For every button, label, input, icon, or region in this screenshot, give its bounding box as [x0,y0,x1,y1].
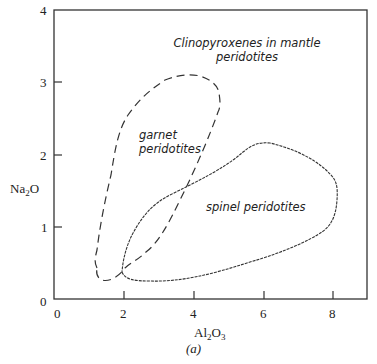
x-tick-6: 6 [260,306,267,321]
y-axis-title: Na2O [10,181,39,198]
spinel-label: spinel peridotites [206,200,306,214]
x-axis-title: Al2O3 [194,325,226,342]
y-tick-2: 2 [40,148,47,163]
garnet-label-line1: garnet [139,128,177,142]
x-tick-0: 0 [54,306,61,321]
y-tick-4: 4 [40,3,47,18]
chart-title-line1: Clinopyroxenes in mantle [174,36,321,50]
y-tick-1: 1 [41,220,48,235]
plot-frame [54,10,367,299]
y-tick-0: 0 [40,294,47,309]
x-tick-2: 2 [120,306,127,321]
y-axis [54,82,62,227]
garnet-peridotites-outline [95,75,220,281]
x-tick-8: 8 [329,306,336,321]
x-tick-4: 4 [190,306,197,321]
chart-canvas: 4 3 2 1 0 0 2 4 6 8 Na2O Al2O3 (a) Clino… [0,0,377,364]
y-tick-3: 3 [40,75,47,90]
garnet-label-line2: peridotites [138,142,201,156]
chart-title-line2: peridotites [215,50,278,64]
x-axis [124,291,333,299]
panel-label: (a) [186,341,201,356]
